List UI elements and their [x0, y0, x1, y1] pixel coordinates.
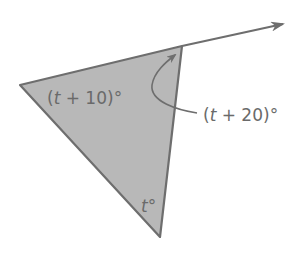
left-angle-label: (t + 10)°	[47, 88, 122, 108]
triangle-diagram: (t + 10)° (t + 20)° t°	[0, 0, 306, 257]
triangle-shape	[20, 46, 182, 237]
extended-ray	[182, 24, 283, 46]
bottom-angle-label: t°	[141, 196, 156, 216]
exterior-angle-label: (t + 20)°	[203, 105, 278, 125]
